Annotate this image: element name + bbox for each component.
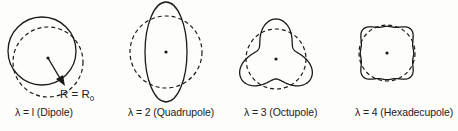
octupole-shape bbox=[240, 19, 313, 89]
radius-annotation-subscript: 0 bbox=[90, 94, 94, 103]
label-hexadecupole: λ = 4 (Hexadecupole) bbox=[355, 106, 453, 118]
hexadecupole-shape bbox=[359, 25, 415, 81]
radius-annotation-text: R = R bbox=[60, 88, 90, 100]
center-dot bbox=[385, 51, 388, 54]
label-dipole: λ = l (Dipole) bbox=[15, 106, 73, 118]
quadrupole-shape bbox=[130, 2, 202, 102]
center-dot bbox=[164, 50, 167, 53]
deformed-shape-solid bbox=[8, 17, 76, 85]
label-octupole: λ = 3 (Octupole) bbox=[244, 106, 317, 118]
label-quadrupole: λ = 2 (Quadrupole) bbox=[128, 106, 214, 118]
radius-annotation: R = R0 bbox=[60, 88, 94, 103]
dipole-shape bbox=[8, 17, 83, 97]
center-dot bbox=[274, 57, 277, 60]
radius-arrow-shaft bbox=[48, 58, 61, 80]
multipole-deformation-diagram: R = R0 λ = l (Dipole) λ = 2 (Quadrupole)… bbox=[0, 0, 458, 131]
